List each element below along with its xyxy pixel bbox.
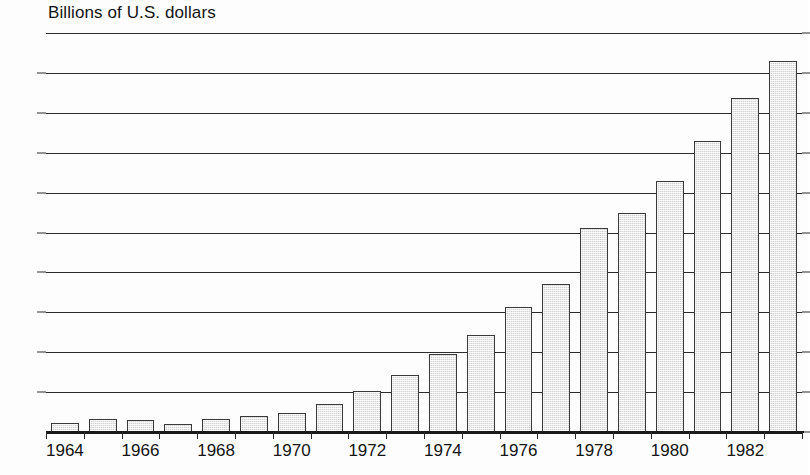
x-tick-1980: [651, 432, 652, 439]
bar-1971: [316, 404, 344, 432]
y-tick-dash-60: [37, 192, 46, 193]
x-tick-1965: [84, 432, 85, 439]
x-axis-label-1966: 1966: [122, 441, 160, 461]
bar-1969: [240, 416, 268, 432]
y-tick-right-10: [802, 392, 810, 393]
x-tick-1975: [462, 432, 463, 439]
y-tick-right-40: [802, 272, 810, 273]
y-tick-dash-30: [37, 312, 46, 313]
x-tick-1973: [386, 432, 387, 439]
x-tick-1971: [311, 432, 312, 439]
y-tick-dash-20: [37, 352, 46, 353]
x-tick-1981: [689, 432, 690, 439]
x-tick-1970: [273, 432, 274, 439]
y-tick-right-60: [802, 192, 810, 193]
y-tick-right-20: [802, 352, 810, 353]
x-tick-1972: [348, 432, 349, 439]
y-tick-dash-50: [37, 232, 46, 233]
y-tick-right-70: [802, 152, 810, 153]
bar-1975: [467, 335, 495, 432]
x-axis-label-1972: 1972: [348, 441, 386, 461]
x-tick-1976: [500, 432, 501, 439]
x-tick-1968: [197, 432, 198, 439]
y-tick-dash-90: [37, 72, 46, 73]
x-tick-1979: [613, 432, 614, 439]
bar-1979: [618, 213, 646, 432]
x-axis-label-1964: 1964: [46, 441, 84, 461]
y-tick-right-30: [802, 312, 810, 313]
x-tick-1983: [764, 432, 765, 439]
x-axis-label-1980: 1980: [651, 441, 689, 461]
bar-1981: [694, 141, 722, 432]
bar-1977: [542, 284, 570, 432]
bar-1982: [731, 98, 759, 432]
bar-1972: [353, 391, 381, 432]
x-tick-1978: [575, 432, 576, 439]
x-axis-label-1974: 1974: [424, 441, 462, 461]
x-tick-1966: [122, 432, 123, 439]
x-tick-end: [802, 432, 803, 439]
y-tick-dash-80: [37, 112, 46, 113]
y-tick-right-80: [802, 112, 810, 113]
x-tick-1969: [235, 432, 236, 439]
x-tick-1967: [159, 432, 160, 439]
y-tick-right-90: [802, 72, 810, 73]
plot-area: 0102030405060708090100: [46, 33, 802, 432]
x-axis-labels: 1964196619681970197219741976197819801982: [46, 441, 802, 471]
bar-1973: [391, 375, 419, 432]
x-axis-label-1982: 1982: [726, 441, 764, 461]
y-tick-dash-70: [37, 152, 46, 153]
x-axis-label-1970: 1970: [273, 441, 311, 461]
bars-series: [46, 33, 802, 432]
x-tick-1974: [424, 432, 425, 439]
bar-1974: [429, 354, 457, 432]
x-tick-1977: [537, 432, 538, 439]
x-tick-1964: [46, 432, 47, 439]
x-tick-1982: [726, 432, 727, 439]
y-tick-dash-40: [37, 272, 46, 273]
x-axis-label-1968: 1968: [197, 441, 235, 461]
bar-1983: [769, 61, 797, 432]
x-axis-label-1976: 1976: [500, 441, 538, 461]
y-tick-right-50: [802, 232, 810, 233]
y-tick-right-100: [802, 33, 810, 34]
bar-1980: [656, 181, 684, 432]
axis-title: Billions of U.S. dollars: [48, 3, 216, 23]
y-tick-dash-10: [37, 392, 46, 393]
bar-1978: [580, 228, 608, 432]
bar-1970: [278, 413, 306, 432]
x-axis-label-1978: 1978: [575, 441, 613, 461]
bar-1976: [505, 307, 533, 432]
